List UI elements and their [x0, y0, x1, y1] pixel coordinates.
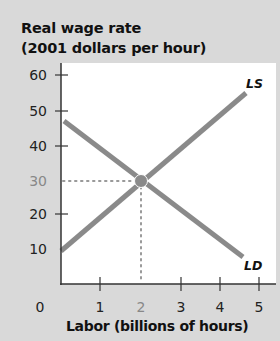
ld-curve	[64, 121, 243, 257]
x-tick-0: 0	[30, 299, 50, 315]
y-tick-20: 20	[17, 206, 47, 222]
ls-label: LS	[246, 76, 263, 91]
x-tick-4: 4	[210, 299, 230, 315]
y-tick-50: 50	[17, 103, 47, 119]
x-tick-3: 3	[171, 299, 191, 315]
chart-svg	[0, 0, 280, 341]
y-tick-40: 40	[17, 138, 47, 154]
x-tick-1: 1	[90, 299, 110, 315]
equilibrium-point	[135, 175, 148, 188]
x-tick-2: 2	[131, 299, 151, 315]
ls-curve	[61, 93, 246, 251]
y-tick-10: 10	[17, 241, 47, 257]
ld-label: LD	[244, 258, 262, 273]
x-tick-5: 5	[249, 299, 269, 315]
y-tick-30: 30	[17, 173, 47, 189]
x-axis-label: Labor (billions of hours)	[66, 318, 248, 334]
y-tick-60: 60	[17, 67, 47, 83]
